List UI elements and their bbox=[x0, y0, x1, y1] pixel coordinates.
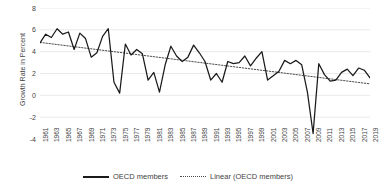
y-axis-tick-labels: 86420-2-4 bbox=[0, 8, 36, 139]
x-tick-label: 2007 bbox=[305, 128, 312, 142]
y-tick-label: 6 bbox=[2, 26, 36, 33]
x-tick-label: 1985 bbox=[180, 128, 187, 142]
x-axis-tick-labels: 1961196319651967196919711973197519771979… bbox=[40, 141, 370, 171]
x-tick-label: 1987 bbox=[191, 128, 198, 142]
x-tick-label: 1977 bbox=[134, 128, 141, 142]
legend-dotted-line-icon bbox=[180, 173, 206, 180]
legend-item-linear-oecd-members: Linear (OECD members) bbox=[180, 172, 293, 181]
x-tick-label: 1969 bbox=[89, 128, 96, 142]
x-tick-label: 2001 bbox=[271, 128, 278, 142]
gridlines bbox=[40, 8, 370, 139]
plot-area bbox=[40, 8, 370, 139]
legend-solid-line-icon bbox=[83, 173, 109, 180]
x-tick-label: 1997 bbox=[248, 128, 255, 142]
x-tick-label: 1981 bbox=[157, 128, 164, 142]
x-tick-label: 2009 bbox=[316, 128, 323, 142]
x-tick-label: 2015 bbox=[350, 128, 357, 142]
x-tick-label: 2003 bbox=[282, 128, 289, 142]
x-tick-label: 1967 bbox=[77, 128, 84, 142]
x-tick-label: 1965 bbox=[66, 128, 73, 142]
x-tick-label: 1983 bbox=[168, 128, 175, 142]
y-tick-label: 4 bbox=[2, 48, 36, 55]
chart-legend: OECD members Linear (OECD members) bbox=[0, 172, 376, 181]
x-tick-label: 2019 bbox=[373, 128, 380, 142]
x-tick-label: 1989 bbox=[202, 128, 209, 142]
y-tick-label: -4 bbox=[2, 136, 36, 143]
x-tick-label: 1971 bbox=[100, 128, 107, 142]
data-line-oecd-members bbox=[40, 29, 370, 134]
x-tick-label: 1999 bbox=[259, 128, 266, 142]
x-tick-label: 2013 bbox=[339, 128, 346, 142]
x-tick-label: 1975 bbox=[123, 128, 130, 142]
y-tick-label: 0 bbox=[2, 92, 36, 99]
y-tick-label: 8 bbox=[2, 5, 36, 12]
legend-label-oecd-members: OECD members bbox=[113, 172, 168, 181]
y-tick-label: 2 bbox=[2, 70, 36, 77]
plot-svg bbox=[40, 8, 370, 139]
x-tick-label: 1961 bbox=[43, 128, 50, 142]
x-tick-label: 1991 bbox=[214, 128, 221, 142]
x-tick-label: 2011 bbox=[327, 128, 334, 142]
legend-label-linear-oecd-members: Linear (OECD members) bbox=[210, 172, 293, 181]
y-tick-label: -2 bbox=[2, 114, 36, 121]
x-tick-label: 2017 bbox=[362, 128, 369, 142]
x-tick-label: 1995 bbox=[236, 128, 243, 142]
x-tick-label: 1993 bbox=[225, 128, 232, 142]
x-tick-label: 1979 bbox=[145, 128, 152, 142]
x-tick-label: 2005 bbox=[293, 128, 300, 142]
legend-item-oecd-members: OECD members bbox=[83, 172, 168, 181]
x-tick-label: 1973 bbox=[111, 128, 118, 142]
x-tick-label: 1963 bbox=[54, 128, 61, 142]
